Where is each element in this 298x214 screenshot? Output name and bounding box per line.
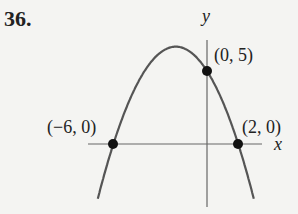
point-label-0-5: (0, 5) [214, 45, 253, 66]
y-axis-label: y [202, 6, 210, 27]
parabola-graph [0, 0, 298, 214]
point-0-5 [202, 66, 212, 76]
point-2-0 [233, 139, 243, 149]
point-label-2-0: (2, 0) [242, 117, 281, 138]
point-neg6-0 [108, 139, 118, 149]
point-label-neg6-0: (−6, 0) [47, 117, 96, 138]
parabola-curve [98, 47, 254, 199]
